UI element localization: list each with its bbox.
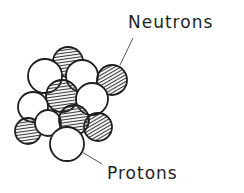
nucleus-particles	[15, 47, 127, 161]
protons-leader-line	[82, 152, 102, 164]
protons-label: Protons	[107, 163, 178, 183]
neutrons-label: Neutrons	[128, 12, 213, 32]
neutrons-leader-line	[120, 38, 133, 65]
proton-particle	[50, 127, 84, 161]
